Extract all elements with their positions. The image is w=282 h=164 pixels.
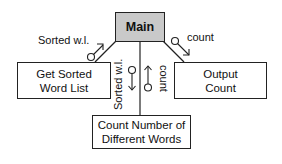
couple-count-up-icon bbox=[145, 66, 152, 91]
module-label-line2: Word List bbox=[40, 81, 88, 95]
module-label-line1: Get Sorted bbox=[36, 67, 92, 81]
couple-sorted-wl-left-icon bbox=[88, 44, 104, 61]
couple-label-count-vertical: count bbox=[158, 65, 170, 92]
module-label-line1: Output bbox=[203, 67, 238, 81]
module-main-label: Main bbox=[126, 20, 154, 34]
couple-label-sorted-wl: Sorted w.l. bbox=[38, 34, 89, 46]
module-label-line1: Count Number of bbox=[98, 118, 186, 132]
module-count-different-words: Count Number of Different Words bbox=[92, 115, 191, 149]
couple-label-sorted-wl-vertical: Sorted w.l. bbox=[112, 59, 124, 110]
module-get-sorted-word-list: Get Sorted Word List bbox=[17, 62, 111, 99]
module-output-count: Output Count bbox=[174, 62, 267, 99]
couple-sorted-wl-down-icon bbox=[129, 67, 136, 91]
module-main: Main bbox=[115, 12, 165, 42]
couple-label-count: count bbox=[187, 31, 214, 43]
module-label-line2: Different Words bbox=[102, 132, 181, 146]
module-label-line2: Count bbox=[205, 81, 236, 95]
